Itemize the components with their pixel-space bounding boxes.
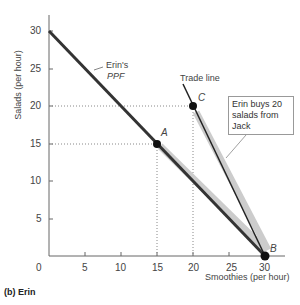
ppf-label-1: Erin's	[106, 60, 128, 70]
y-tick: 20	[30, 100, 41, 111]
callout-leader	[226, 135, 246, 158]
trade-line-label: Trade line	[180, 73, 220, 83]
y-tick: 5	[36, 213, 42, 224]
point-a-label: A	[161, 127, 168, 138]
point-c-label: C	[198, 92, 205, 103]
y-tick: 15	[30, 138, 41, 149]
y-tick: 10	[30, 175, 41, 186]
x-tick: 0	[36, 262, 42, 273]
point-a	[153, 140, 161, 148]
point-b	[261, 252, 270, 261]
point-b-label: B	[270, 243, 277, 254]
point-c	[189, 102, 197, 110]
chart: Salads (per hour) 30 25 20 15 10 5 0 5 1…	[0, 0, 300, 305]
plot-area	[0, 0, 300, 305]
ppf-label-2: PPF	[107, 71, 125, 81]
x-tick: 20	[188, 262, 199, 273]
x-tick: 10	[115, 262, 126, 273]
y-tick: 25	[30, 63, 41, 74]
y-tick: 30	[30, 25, 41, 36]
y-axis-label: Salads (per hour)	[13, 45, 23, 125]
ppf-leader	[94, 67, 103, 70]
figure-caption: (b) Erin	[4, 287, 36, 297]
x-axis-label: Smoothies (per hour)	[205, 272, 290, 282]
guide-lines	[49, 106, 193, 256]
callout-box: Erin buys 20 salads from Jack	[228, 96, 294, 135]
x-tick: 5	[82, 262, 88, 273]
x-tick: 15	[152, 262, 163, 273]
